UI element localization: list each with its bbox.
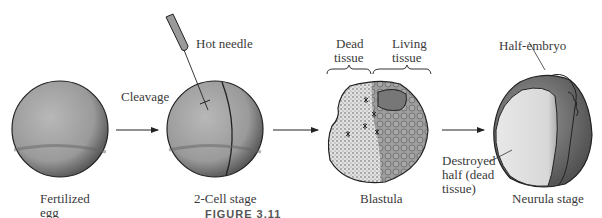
figure-caption-fragment: FIGURE 3.11: [205, 208, 281, 218]
dead-tissue-label-2: tissue: [334, 50, 364, 65]
dead-tissue-brace: [327, 65, 371, 74]
dead-tissue-label-1: Dead: [336, 36, 363, 51]
living-tissue-label-2: tissue: [392, 50, 422, 65]
living-tissue-label-1: Living: [392, 36, 427, 51]
diagram-canvas: [0, 0, 602, 218]
blastula-label: Blastula: [360, 191, 403, 206]
two-cell-stage-label: 2-Cell stage: [194, 191, 256, 206]
destroyed-half-label-3: tissue): [442, 181, 476, 196]
destroyed-half-label-2: half (dead: [442, 167, 494, 182]
neurula-embryo: [494, 74, 592, 187]
fertilized-egg-label-1: Fertilized: [40, 191, 90, 206]
living-tissue-brace: [373, 65, 431, 74]
blastula: [320, 78, 440, 190]
fertilized-egg-label-2: egg: [40, 205, 59, 218]
fertilized-egg: [12, 81, 108, 177]
neurula-stage-label: Neurula stage: [512, 191, 584, 206]
two-cell-egg: [167, 81, 263, 177]
destroyed-half-label-1: Destroyed: [442, 153, 495, 168]
hot-needle-label: Hot needle: [196, 36, 253, 51]
half-embryo-label: Half-embryo: [499, 38, 566, 53]
cleavage-label: Cleavage: [121, 89, 169, 104]
